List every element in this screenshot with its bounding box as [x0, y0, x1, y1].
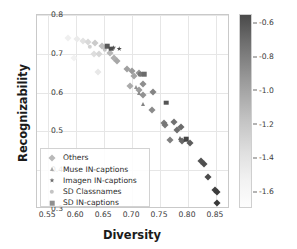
- data-point: [171, 119, 178, 126]
- legend-item-sd-classnames[interactable]: SD Classnames: [41, 186, 149, 198]
- data-point: [64, 35, 71, 42]
- gridline-horizontal-4: [37, 54, 228, 55]
- data-point: [205, 173, 212, 180]
- colorbar-tick-label: -0.8: [253, 52, 274, 61]
- legend-marker-star-icon: [41, 175, 63, 187]
- data-point: [87, 45, 91, 49]
- colorbar-tick-label: -1.4: [253, 153, 274, 162]
- legend-item-muse-in-captions[interactable]: Muse IN-captions: [41, 163, 149, 175]
- colorbar-tick-mark: [253, 124, 257, 125]
- legend-label: SD Classnames: [63, 187, 122, 196]
- x-tick-label: 0.85: [200, 210, 230, 219]
- data-point: [91, 40, 98, 47]
- gridline-vertical-5: [188, 15, 189, 207]
- colorbar-tick-label: -1.0: [253, 85, 274, 94]
- colorbar-tick-label: -1.6: [253, 187, 274, 196]
- x-tick-label: 0.70: [116, 210, 146, 219]
- x-axis-title: Diversity: [33, 228, 231, 242]
- data-point: [142, 72, 147, 77]
- legend-item-sd-in-captions[interactable]: SD IN-captions: [41, 197, 149, 209]
- data-point: [201, 160, 208, 167]
- y-tick-label: 0.7: [33, 48, 63, 57]
- data-point: [113, 58, 120, 65]
- legend-label: Imagen IN-captions: [63, 176, 137, 185]
- x-tick-label: 0.75: [144, 210, 174, 219]
- data-point: [184, 137, 189, 142]
- legend-item-imagen-in-captions[interactable]: Imagen IN-captions: [41, 175, 149, 187]
- y-tick-label: 0.8: [33, 10, 63, 19]
- data-point: [96, 51, 103, 58]
- legend: OthersMuse IN-captionsImagen IN-captions…: [40, 148, 150, 207]
- legend-label: Others: [63, 153, 89, 162]
- data-point: [178, 136, 182, 140]
- legend-item-others[interactable]: Others: [41, 152, 149, 164]
- colorbar: [239, 14, 252, 208]
- colorbar-tick-label: -1.2: [253, 119, 274, 128]
- gridline-horizontal-3: [37, 93, 228, 94]
- x-tick-label: 0.55: [32, 210, 62, 219]
- data-point: [137, 91, 141, 95]
- colorbar-tick-mark: [253, 22, 257, 23]
- colorbar-tick-mark: [253, 157, 257, 158]
- data-point: [134, 85, 138, 89]
- colorbar-tick-mark: [253, 56, 257, 57]
- data-point: [149, 89, 156, 96]
- gridline-vertical-6: [216, 15, 217, 207]
- y-axis-title: Recognizability: [16, 43, 30, 183]
- data-point: [213, 200, 220, 207]
- data-point: [167, 137, 174, 144]
- data-point: [94, 69, 101, 76]
- colorbar-tick-mark: [253, 191, 257, 192]
- legend-marker-square-icon: [41, 197, 63, 209]
- colorbar-tick-mark: [253, 90, 257, 91]
- gridline-vertical-4: [160, 15, 161, 207]
- y-tick-label: 0.5: [33, 126, 63, 135]
- y-tick-label: 0.6: [33, 87, 63, 96]
- data-point: [141, 102, 145, 106]
- data-point: [214, 188, 221, 195]
- legend-label: SD IN-captions: [63, 198, 119, 207]
- legend-marker-triangle-icon: [41, 163, 63, 175]
- scatter-figure: Recognizability Diversity 0.30.40.50.60.…: [0, 0, 297, 249]
- x-tick-label: 0.65: [88, 210, 118, 219]
- legend-label: Muse IN-captions: [63, 165, 128, 174]
- data-point: [109, 46, 114, 51]
- data-point: [148, 106, 155, 113]
- data-point: [117, 46, 122, 51]
- colorbar-tick-label: -0.6: [253, 18, 274, 27]
- legend-marker-circle-icon: [41, 186, 63, 198]
- gridline-horizontal-5: [37, 15, 228, 16]
- x-tick-label: 0.80: [172, 210, 202, 219]
- x-tick-label: 0.60: [60, 210, 90, 219]
- data-point: [164, 100, 169, 105]
- gridline-horizontal-2: [37, 131, 228, 132]
- legend-marker-diamond-icon: [41, 152, 63, 164]
